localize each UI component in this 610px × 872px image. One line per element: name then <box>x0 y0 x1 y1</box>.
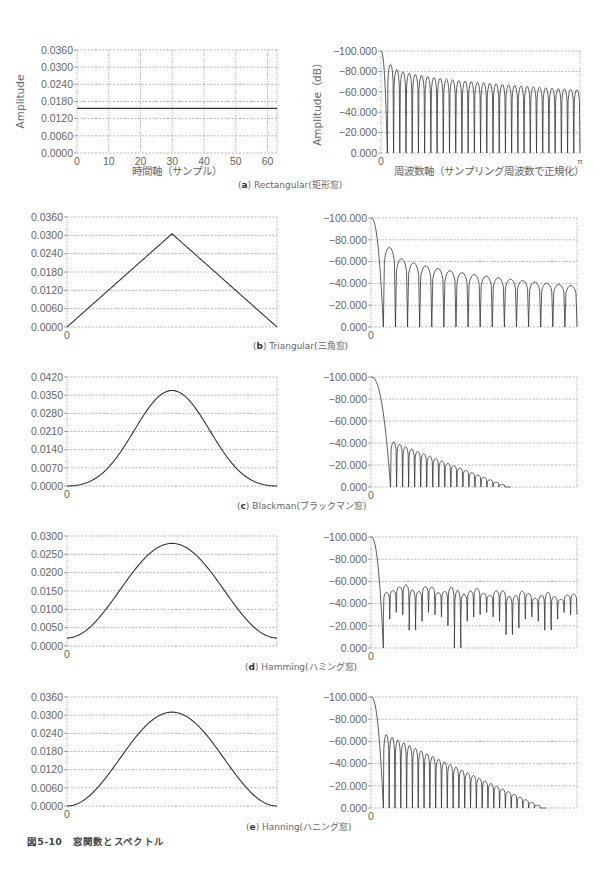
chart-d-freq: 0.000−20.000−40.000−60.000−80.000−100.00… <box>323 531 577 662</box>
spectrum-curve <box>371 218 577 327</box>
x-tick-label: 60 <box>262 155 274 167</box>
y-tick-label: −60.000 <box>329 575 367 587</box>
y-tick-label: 0.0000 <box>41 147 73 159</box>
window-curve <box>67 543 277 638</box>
x-tick-label: 0 <box>64 488 70 500</box>
y-axis-label: Amplitude <box>14 75 26 129</box>
y-tick-label: 0.000 <box>341 642 367 654</box>
figure-caption: 図5-10 窓関数とスペクトル <box>27 834 164 848</box>
y-tick-label: 0.0140 <box>31 443 63 455</box>
y-tick-label: −40.000 <box>329 277 367 289</box>
chart-a-freq: 0.000−20.000−40.000−60.000−80.000−100.00… <box>311 45 584 177</box>
y-tick-label: −40.000 <box>329 597 367 609</box>
y-tick-label: 0.0120 <box>31 763 63 775</box>
x-tick-label: 0 <box>368 650 374 662</box>
caption-letter: b <box>257 341 263 351</box>
y-tick-label: 0.0120 <box>41 112 73 124</box>
y-tick-label: 0.0200 <box>31 566 63 578</box>
y-tick-label: −80.000 <box>329 553 367 565</box>
y-tick-label: −80.000 <box>329 713 367 725</box>
y-tick-label: −20.000 <box>329 459 367 471</box>
x-tick-label: 10 <box>103 155 115 167</box>
y-tick-label: 0.0180 <box>31 745 63 757</box>
y-tick-label: 0.0000 <box>31 640 63 652</box>
chart-b-time: 0.00000.00600.01200.01800.02400.03000.03… <box>31 211 277 341</box>
y-tick-label: 0.0360 <box>41 44 73 56</box>
y-tick-label: −60.000 <box>329 415 367 427</box>
chart-e-time: 0.00000.00600.01200.01800.02400.03000.03… <box>31 691 277 820</box>
window-curve <box>67 391 277 487</box>
caption-text: Blackman(ブラックマン窓) <box>252 501 366 511</box>
y-tick-label: −80.000 <box>339 65 377 77</box>
chart-c-freq: 0.000−20.000−40.000−60.000−80.000−100.00… <box>323 371 577 501</box>
y-tick-label: 0.0240 <box>31 247 63 259</box>
x-axis-label: 周波数軸（サンプリング周波数で正規化） <box>394 165 584 177</box>
spectrum-curve <box>381 51 580 153</box>
y-tick-label: −60.000 <box>329 255 367 267</box>
y-tick-label: −100.000 <box>333 45 377 57</box>
caption-panel-a: (a) Rectangular(矩形窓) <box>238 178 342 191</box>
spectrum-curve <box>371 537 577 648</box>
y-tick-label: 0.0240 <box>41 78 73 90</box>
window-curve <box>67 234 277 327</box>
y-tick-label: 0.0240 <box>31 727 63 739</box>
caption-text: Hanning(ハニング窓) <box>262 822 352 832</box>
y-tick-label: 0.0100 <box>31 603 63 615</box>
x-tick-label: 0 <box>64 329 70 341</box>
y-tick-label: −80.000 <box>329 393 367 405</box>
y-tick-label: 0.0060 <box>31 782 63 794</box>
y-tick-label: −100.000 <box>323 371 367 383</box>
y-tick-label: 0.000 <box>351 147 377 159</box>
y-tick-label: −40.000 <box>339 106 377 118</box>
x-tick-label: 0 <box>368 329 374 341</box>
chart-a-time: 0.00000.00600.01200.01800.02400.03000.03… <box>14 44 277 177</box>
caption-panel-d: (d) Hamming(ハミング窓) <box>245 660 357 673</box>
y-tick-label: −60.000 <box>339 86 377 98</box>
y-tick-label: 0.0360 <box>31 691 63 703</box>
x-tick-label: 0 <box>368 489 374 501</box>
y-tick-label: 0.0300 <box>31 229 63 241</box>
y-tick-label: 0.0000 <box>31 480 63 492</box>
y-tick-label: −100.000 <box>323 531 367 543</box>
chart-e-freq: 0.000−20.000−40.000−60.000−80.000−100.00… <box>323 691 577 822</box>
y-tick-label: 0.0060 <box>31 302 63 314</box>
y-axis-label: Amplitude（dB） <box>311 58 323 146</box>
y-tick-label: 0.0000 <box>31 800 63 812</box>
caption-letter: c <box>241 501 246 511</box>
y-tick-label: −20.000 <box>329 299 367 311</box>
caption-letter: a <box>242 180 248 190</box>
y-tick-label: −20.000 <box>329 780 367 792</box>
y-tick-label: −100.000 <box>323 212 367 224</box>
y-tick-label: 0.0120 <box>31 284 63 296</box>
y-tick-label: 0.0350 <box>31 389 63 401</box>
x-tick-label: 0 <box>368 810 374 822</box>
x-tick-label: 0 <box>74 155 80 167</box>
y-tick-label: 0.0420 <box>31 371 63 383</box>
caption-letter: e <box>250 822 256 832</box>
y-tick-label: 0.0300 <box>41 61 73 73</box>
caption-panel-b: (b) Triangular(三角窓) <box>253 339 348 352</box>
y-tick-label: 0.0210 <box>31 425 63 437</box>
y-tick-label: 0.0360 <box>31 211 63 223</box>
caption-panel-e: (e) Hanning(ハニング窓) <box>246 820 352 833</box>
chart-d-time: 0.00000.00500.01000.01500.02000.02500.03… <box>31 530 277 660</box>
plots-layer: 0.00000.00600.01200.01800.02400.03000.03… <box>14 44 584 822</box>
y-tick-label: −40.000 <box>329 757 367 769</box>
y-tick-label: 0.0050 <box>31 621 63 633</box>
y-tick-label: 0.0000 <box>31 321 63 333</box>
spectrum-curve <box>371 377 511 487</box>
y-tick-label: 0.0180 <box>31 266 63 278</box>
spectrum-curve <box>371 697 546 808</box>
caption-text: Rectangular(矩形窓) <box>254 180 342 190</box>
y-tick-label: 0.0150 <box>31 585 63 597</box>
x-tick-label: 0 <box>64 648 70 660</box>
chart-c-time: 0.00000.00700.01400.02100.02800.03500.04… <box>31 371 277 500</box>
x-tick-label: 50 <box>230 155 242 167</box>
y-tick-label: 0.0070 <box>31 462 63 474</box>
caption-letter: d <box>249 662 255 672</box>
x-tick-label: 0 <box>378 155 384 167</box>
y-tick-label: 0.0060 <box>41 130 73 142</box>
window-curve <box>67 712 277 806</box>
y-tick-label: −20.000 <box>339 126 377 138</box>
y-tick-label: 0.0300 <box>31 709 63 721</box>
